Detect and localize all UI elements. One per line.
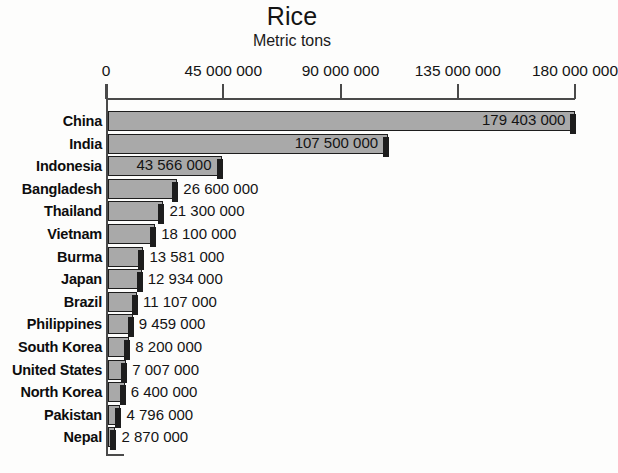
bar-value-label: 11 107 000 [143, 291, 217, 312]
plot-area: China179 403 000India107 500 000Indonesi… [0, 110, 584, 455]
category-label: Japan [2, 268, 102, 290]
bar[interactable] [108, 201, 163, 221]
bar-end-shadow [138, 250, 144, 270]
bar-end-shadow [121, 363, 127, 383]
bar-container [108, 314, 133, 334]
bar-container [108, 427, 115, 447]
bar-container [108, 269, 142, 289]
bar-container [108, 224, 155, 244]
bar-value-label: 26 600 000 [183, 178, 258, 199]
bar-end-shadow [158, 204, 164, 224]
bar[interactable] [108, 224, 155, 244]
bar-end-shadow [110, 430, 116, 450]
category-label: Indonesia [2, 155, 102, 177]
bar-row[interactable]: Japan12 934 000 [0, 268, 584, 290]
category-label: Thailand [2, 200, 102, 222]
category-label: Pakistan [2, 404, 102, 426]
category-label: Brazil [2, 291, 102, 313]
x-axis-tick-labels: 045 000 00090 000 000135 000 000180 000 … [0, 62, 584, 82]
category-label: South Korea [2, 336, 102, 358]
category-label: Nepal [2, 426, 102, 448]
bar-container [108, 292, 137, 312]
x-axis-tick-3 [457, 84, 459, 99]
bar-container [108, 405, 120, 425]
x-axis-label-2: 90 000 000 [302, 62, 380, 79]
bar-value-label: 8 200 000 [135, 336, 202, 357]
bar-value-label: 21 300 000 [169, 200, 244, 221]
bar-end-shadow [132, 295, 138, 315]
bar-end-shadow [120, 385, 126, 405]
bar-row[interactable]: Nepal2 870 000 [0, 426, 584, 448]
bar-value-label: 18 100 000 [161, 223, 236, 244]
bar-value-label: 43 566 000 [136, 155, 211, 175]
bar-container [108, 382, 125, 402]
bar-end-shadow [570, 114, 576, 134]
bar-container [108, 179, 177, 199]
bar-row[interactable]: Brazil11 107 000 [0, 291, 584, 313]
bar-value-label: 9 459 000 [139, 313, 206, 334]
category-label: United States [2, 359, 102, 381]
bar-row[interactable]: United States7 007 000 [0, 359, 584, 381]
x-axis-tick-4 [574, 84, 576, 99]
bar-value-label: 6 400 000 [131, 381, 198, 402]
category-label: Bangladesh [2, 178, 102, 200]
chart-subtitle: Metric tons [0, 31, 584, 50]
bar-container [108, 337, 129, 357]
bar-value-label: 13 581 000 [149, 246, 224, 267]
bar-end-shadow [217, 159, 223, 179]
chart-title: Rice [0, 2, 584, 30]
bar-end-shadow [172, 182, 178, 202]
x-axis-label-3: 135 000 000 [415, 62, 501, 79]
bar-end-shadow [150, 227, 156, 247]
bar-end-shadow [124, 340, 130, 360]
category-label: China [2, 110, 102, 132]
bar-row[interactable]: Indonesia43 566 000 [0, 155, 584, 177]
bar-row[interactable]: North Korea6 400 000 [0, 381, 584, 403]
category-label: Burma [2, 246, 102, 268]
bar-row[interactable]: Pakistan4 796 000 [0, 404, 584, 426]
category-label: Philippines [2, 313, 102, 335]
bar-value-label: 4 796 000 [126, 404, 193, 425]
bar-end-shadow [137, 272, 143, 292]
bar-value-label: 2 870 000 [121, 426, 188, 447]
bar-container [108, 247, 143, 267]
bar-value-label: 179 403 000 [482, 110, 565, 130]
category-label: India [2, 133, 102, 155]
category-label: Vietnam [2, 223, 102, 245]
bar-row[interactable]: India107 500 000 [0, 133, 584, 155]
bar-value-label: 7 007 000 [132, 359, 199, 380]
x-axis-label-4: 180 000 000 [532, 62, 618, 79]
bar-value-label: 12 934 000 [148, 268, 223, 289]
bar-row[interactable]: Burma13 581 000 [0, 246, 584, 268]
x-axis-tick-1 [222, 84, 224, 99]
bar[interactable] [108, 179, 177, 199]
x-axis-label-1: 45 000 000 [184, 62, 262, 79]
bar-row[interactable]: Thailand21 300 000 [0, 200, 584, 222]
x-axis-label-0: 0 [102, 62, 111, 79]
bar-end-shadow [128, 317, 134, 337]
bar-container [108, 360, 126, 380]
bar-row[interactable]: Vietnam18 100 000 [0, 223, 584, 245]
bar-row[interactable]: China179 403 000 [0, 110, 584, 132]
bar-row[interactable]: South Korea8 200 000 [0, 336, 584, 358]
x-axis-line [106, 98, 575, 100]
bar-value-label: 107 500 000 [295, 133, 378, 153]
bar-end-shadow [115, 408, 121, 428]
bar-row[interactable]: Bangladesh26 600 000 [0, 178, 584, 200]
x-axis-tick-2 [340, 84, 342, 99]
bar-container [108, 201, 163, 221]
category-label: North Korea [2, 381, 102, 403]
bar-end-shadow [383, 137, 389, 157]
bar-row[interactable]: Philippines9 459 000 [0, 313, 584, 335]
